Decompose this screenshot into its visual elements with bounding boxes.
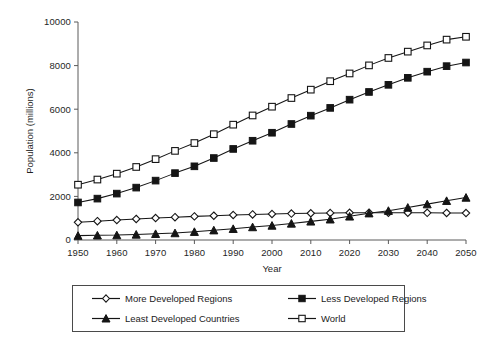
data-point-filled-square <box>405 75 412 82</box>
data-point-open-square <box>405 48 412 55</box>
data-point-filled-square <box>249 137 256 144</box>
y-axis-tick-label: 0 <box>66 234 71 245</box>
y-axis-title: Population (millions) <box>24 88 35 174</box>
line-chart: 0200040006000800010000195019601970198019… <box>0 0 489 275</box>
data-point-open-square <box>463 33 470 40</box>
data-point-filled-square <box>75 199 82 206</box>
x-axis-tick-label: 2010 <box>300 247 322 258</box>
data-point-open-square <box>385 55 392 62</box>
data-point-open-diamond <box>113 216 120 223</box>
legend-item-least-developed-countries[interactable]: Least Developed Countries <box>91 313 287 324</box>
data-point-filled-square <box>288 121 295 128</box>
data-point-open-square <box>133 164 140 171</box>
data-point-open-square <box>269 103 276 110</box>
data-point-open-diamond <box>268 210 275 217</box>
data-point-open-square <box>366 62 373 69</box>
legend-label: World <box>321 314 346 324</box>
data-point-filled-square <box>230 146 237 153</box>
x-axis-tick-label: 2040 <box>416 247 438 258</box>
data-point-filled-square <box>172 170 179 177</box>
series-line <box>78 37 466 185</box>
data-point-open-square <box>443 36 450 43</box>
data-point-open-square <box>94 176 101 183</box>
data-point-open-square <box>114 170 121 177</box>
filled-square-marker-icon <box>287 293 317 304</box>
data-point-open-diamond <box>94 217 101 224</box>
legend-item-more-developed-regions[interactable]: More Developed Regions <box>91 293 287 304</box>
data-point-open-diamond <box>171 213 178 220</box>
data-point-open-diamond <box>443 209 450 216</box>
data-point-filled-square <box>191 163 198 170</box>
data-point-open-diamond <box>74 219 81 226</box>
data-point-open-diamond <box>191 213 198 220</box>
data-point-open-diamond <box>288 210 295 217</box>
data-point-filled-square <box>133 184 140 191</box>
data-point-filled-square <box>424 68 431 75</box>
x-axis-tick-label: 1950 <box>67 247 89 258</box>
y-axis-tick-label: 4000 <box>49 147 71 158</box>
data-point-filled-square <box>366 89 373 96</box>
x-axis-tick-label: 1970 <box>145 247 167 258</box>
data-point-filled-square <box>114 190 121 197</box>
y-axis-tick-label: 2000 <box>49 191 71 202</box>
data-point-open-square <box>249 112 256 119</box>
data-point-open-square <box>230 121 237 128</box>
x-axis-tick-label: 1960 <box>106 247 128 258</box>
filled-triangle-marker-icon <box>91 313 121 324</box>
data-point-open-diamond <box>152 214 159 221</box>
data-point-open-square <box>191 140 198 147</box>
x-axis-tick-label: 1990 <box>222 247 244 258</box>
data-point-open-square <box>327 78 334 85</box>
data-point-filled-square <box>211 155 218 162</box>
data-point-filled-square <box>346 96 353 103</box>
x-axis-tick-label: 2030 <box>378 247 400 258</box>
data-point-open-square <box>424 42 431 49</box>
data-point-filled-square <box>385 82 392 89</box>
data-point-open-diamond <box>249 211 256 218</box>
data-point-filled-square <box>463 59 470 66</box>
x-axis-tick-label: 1980 <box>184 247 206 258</box>
data-point-open-diamond <box>424 209 431 216</box>
data-point-filled-square <box>269 129 276 136</box>
data-point-open-square <box>172 148 179 155</box>
data-point-filled-square <box>308 112 315 119</box>
data-point-open-diamond <box>307 210 314 217</box>
data-point-filled-square <box>94 195 101 202</box>
x-axis-tick-label: 2020 <box>339 247 361 258</box>
data-point-filled-square <box>327 105 334 112</box>
data-point-open-square <box>346 70 353 77</box>
data-point-open-square <box>288 95 295 102</box>
data-point-open-diamond <box>133 215 140 222</box>
data-point-open-square <box>308 86 315 93</box>
y-axis-tick-label: 6000 <box>49 104 71 115</box>
open-diamond-marker-icon <box>91 293 121 304</box>
data-point-filled-square <box>443 63 450 70</box>
data-point-open-diamond <box>210 212 217 219</box>
series-world <box>75 33 470 188</box>
data-point-open-diamond <box>462 209 469 216</box>
legend-label: Less Developed Regions <box>321 294 427 304</box>
x-axis-tick-label: 2050 <box>455 247 477 258</box>
data-point-open-square <box>211 131 218 138</box>
legend-item-world[interactable]: World <box>287 313 427 324</box>
legend-label: Least Developed Countries <box>125 314 240 324</box>
x-axis-tick-label: 2000 <box>261 247 283 258</box>
y-axis-tick-label: 10000 <box>44 16 71 27</box>
data-point-open-diamond <box>230 211 237 218</box>
chart-plot-area: 0200040006000800010000195019601970198019… <box>0 0 489 275</box>
population-projection-figure: 0200040006000800010000195019601970198019… <box>0 0 489 344</box>
series-less-developed-regions <box>75 59 470 206</box>
data-point-open-square <box>75 181 82 188</box>
data-point-filled-triangle <box>462 194 470 202</box>
data-point-filled-square <box>152 177 159 184</box>
legend-label: More Developed Regions <box>125 294 232 304</box>
open-square-marker-icon <box>287 313 317 324</box>
data-point-open-square <box>152 156 159 163</box>
chart-legend: More Developed Regions Less Developed Re… <box>72 285 405 332</box>
x-axis-title: Year <box>262 263 281 274</box>
y-axis-tick-label: 8000 <box>49 60 71 71</box>
legend-item-less-developed-regions[interactable]: Less Developed Regions <box>287 293 427 304</box>
